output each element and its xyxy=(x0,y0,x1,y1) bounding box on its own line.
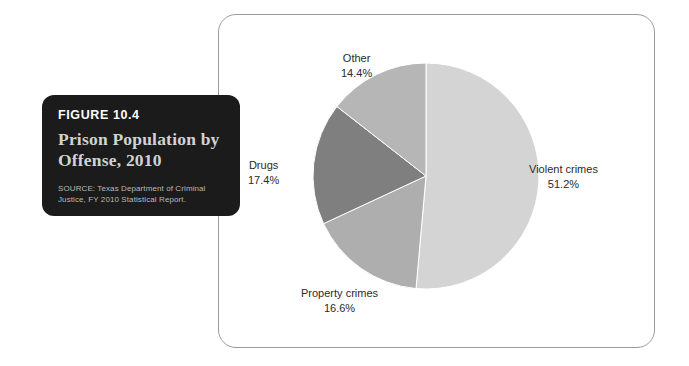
pie-label-violent-crimes: Violent crimes 51.2% xyxy=(529,162,598,192)
pie-label-drugs: Drugs 17.4% xyxy=(248,158,279,188)
pie-label-drugs-value: 17.4% xyxy=(248,173,279,188)
pie-label-other-value: 14.4% xyxy=(341,66,372,81)
figure-title: Prison Population by Offense, 2010 xyxy=(58,129,224,171)
pie-chart-svg xyxy=(313,63,539,289)
chart-frame: Other 14.4% Violent crimes 51.2% Drugs 1… xyxy=(218,14,655,348)
figure-source: SOURCE: Texas Department of Criminal Jus… xyxy=(58,183,224,206)
pie-label-property-crimes: Property crimes 16.6% xyxy=(301,286,378,316)
pie-label-drugs-name: Drugs xyxy=(248,158,279,173)
figure-caption-card: FIGURE 10.4 Prison Population by Offense… xyxy=(42,95,240,216)
pie-slice-violent-crimes xyxy=(416,63,539,289)
pie-label-other-name: Other xyxy=(341,51,372,66)
pie-label-violent-crimes-name: Violent crimes xyxy=(529,162,598,177)
pie-label-property-crimes-value: 16.6% xyxy=(301,301,378,316)
pie-label-violent-crimes-value: 51.2% xyxy=(529,177,598,192)
pie-chart xyxy=(313,63,539,289)
pie-label-other: Other 14.4% xyxy=(341,51,372,81)
pie-label-property-crimes-name: Property crimes xyxy=(301,286,378,301)
figure-number: FIGURE 10.4 xyxy=(58,109,224,123)
